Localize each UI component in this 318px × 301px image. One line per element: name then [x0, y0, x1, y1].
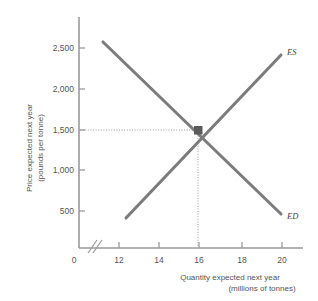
y-tick-label-500: 500 [60, 206, 74, 216]
y-axis-ticks [79, 48, 85, 211]
y-tick-label-2500: 2,500 [53, 43, 75, 53]
x-tick-label-18: 18 [237, 255, 247, 265]
y-axis-title: Price expected next year [25, 104, 34, 192]
x-axis-title: Quantity expected next year [180, 273, 280, 282]
x-tick-label-0: 0 [72, 255, 77, 265]
x-axis-title-sub: (millions of tonnes) [228, 284, 295, 293]
series-label-es: ES [286, 47, 297, 57]
x-tick-label-14: 14 [154, 255, 164, 265]
y-tick-label-1500: 1,500 [53, 125, 75, 135]
series-label-ed: ED [286, 211, 299, 221]
equilibrium-point-marker [194, 126, 203, 135]
chart-container: 2,500 2,000 1,500 1,000 500 0 12 14 16 1… [0, 0, 318, 301]
supply-demand-chart: 2,500 2,000 1,500 1,000 500 0 12 14 16 1… [0, 0, 318, 301]
x-axis-ticks [119, 242, 282, 248]
x-tick-label-20: 20 [277, 255, 287, 265]
y-tick-label-1000: 1,000 [53, 165, 75, 175]
demand-curve-ed [103, 42, 281, 214]
y-tick-label-2000: 2,000 [53, 84, 75, 94]
axis-break-icon [88, 240, 102, 253]
x-tick-label-16: 16 [194, 255, 204, 265]
x-tick-label-12: 12 [114, 255, 124, 265]
y-axis-title-sub: (pounds per tonne) [36, 114, 45, 182]
